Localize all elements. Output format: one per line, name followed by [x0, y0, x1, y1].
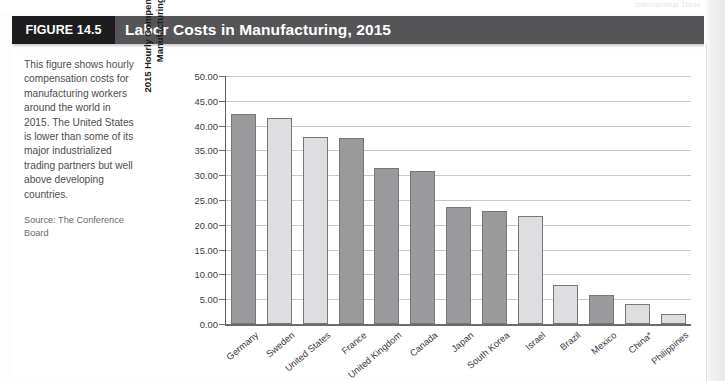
x-axis-tick-label: Japan	[450, 330, 476, 354]
x-axis-tick-label: Germany	[225, 330, 261, 362]
running-head-title: International Trade	[635, 1, 701, 8]
y-axis-tick-label: 50.00	[174, 71, 218, 82]
bar-germany	[231, 114, 256, 324]
bar-israel	[518, 216, 543, 324]
bar-brazil	[553, 285, 578, 324]
y-axis-tick-label: 35.00	[174, 145, 218, 156]
x-axis-tick-label: Philippines	[649, 330, 690, 367]
x-axis-line	[225, 324, 691, 326]
bar-south-korea	[482, 211, 507, 324]
y-axis-tick-label: 15.00	[174, 244, 218, 255]
x-axis-tick-label: Sweden	[264, 330, 296, 359]
y-axis-tick-label: 0.00	[174, 319, 218, 330]
x-axis-tick-label: France	[340, 330, 369, 356]
bar-united-kingdom	[374, 168, 399, 324]
bar-philippines	[661, 314, 686, 324]
bar-chart: 2015 Hourly Compensation Costs for Manuf…	[148, 52, 700, 377]
running-head: International Trade 395	[0, 0, 725, 12]
y-axis-tick-label: 20.00	[174, 219, 218, 230]
bar-sweden	[267, 118, 292, 324]
y-axis-tick-label: 30.00	[174, 170, 218, 181]
x-axis-tick-label: Brazil	[559, 330, 583, 353]
x-axis-tick-label: Israel	[523, 330, 547, 352]
y-axis-tick-label: 25.00	[174, 195, 218, 206]
bar-japan	[446, 207, 471, 324]
plot-area	[226, 76, 691, 324]
caption-body-text: This figure shows hourly compensation co…	[24, 58, 136, 202]
bar-canada	[410, 171, 435, 324]
caption-source-text: Source: The Conference Board	[24, 214, 136, 239]
bar-china	[625, 304, 650, 324]
y-axis-tick-label: 10.00	[174, 269, 218, 280]
y-axis-title: 2015 Hourly Compensation Costs for Manuf…	[142, 0, 166, 110]
x-axis-tick-label: China*	[626, 330, 654, 356]
bar-france	[339, 138, 364, 324]
bar-mexico	[589, 295, 614, 324]
figure-page: International Trade 395 FIGURE 14.5 Labo…	[0, 0, 725, 381]
bar-united-states	[303, 137, 328, 324]
y-axis-tick-label: 40.00	[174, 120, 218, 131]
figure-title-band: FIGURE 14.5 Labor Costs in Manufacturing…	[12, 16, 710, 44]
page-gutter	[704, 0, 725, 381]
figure-number-badge: FIGURE 14.5	[12, 16, 115, 44]
y-axis-tick-label: 5.00	[174, 294, 218, 305]
page-gutter-line	[706, 44, 707, 381]
x-axis-tick-label: Mexico	[590, 330, 619, 357]
y-axis-tick-label: 45.00	[174, 95, 218, 106]
x-axis-tick-label: Canada	[408, 330, 439, 359]
figure-caption: This figure shows hourly compensation co…	[24, 58, 136, 239]
